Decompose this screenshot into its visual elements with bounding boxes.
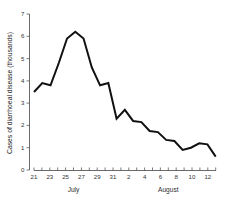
y-tick-label: 7	[21, 10, 25, 17]
x-tick-label: 29	[94, 173, 101, 180]
x-axis-tick-labels: 21 23 25 27 29 31 2 4 6 8 10 12	[31, 173, 212, 180]
y-tick-label: 1	[21, 144, 25, 151]
y-tick-label: 3	[21, 99, 25, 106]
x-tick-label: 21	[31, 173, 38, 180]
y-tick-label: 5	[21, 55, 25, 62]
chart-figure: Cases of diarrhoeal disease (thousands) …	[0, 0, 226, 201]
month-label-july: July	[68, 186, 80, 194]
y-tick-label: 6	[21, 32, 25, 39]
y-tick-label: 0	[21, 166, 25, 173]
x-tick-label: 2	[127, 173, 131, 180]
epidemic-curve-chart: Cases of diarrhoeal disease (thousands) …	[0, 0, 226, 201]
x-tick-label: 23	[46, 173, 53, 180]
y-axis-ticks: 7 6 5 4 3 2 1 0	[21, 10, 29, 173]
y-axis-label: Cases of diarrhoeal disease (thousands)	[6, 32, 14, 154]
y-tick-label: 4	[21, 77, 25, 84]
y-tick-label: 2	[21, 121, 25, 128]
month-label-august: August	[158, 186, 179, 194]
x-tick-label: 25	[62, 173, 69, 180]
data-series-line	[34, 32, 216, 157]
x-tick-label: 27	[78, 173, 85, 180]
x-tick-label: 31	[110, 173, 117, 180]
x-tick-label: 6	[159, 173, 163, 180]
x-tick-label: 4	[143, 173, 147, 180]
x-tick-label: 12	[204, 173, 211, 180]
x-tick-label: 8	[175, 173, 179, 180]
x-tick-label: 10	[189, 173, 196, 180]
